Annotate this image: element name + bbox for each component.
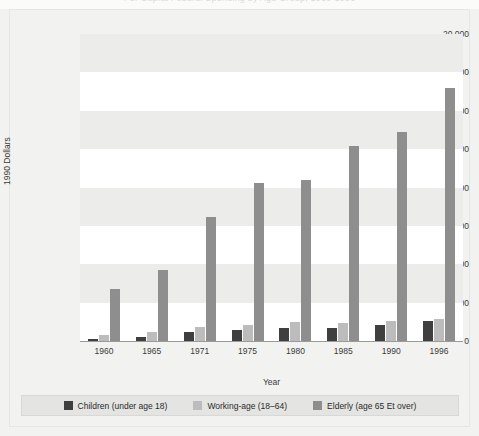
legend-item[interactable]: Elderly (age 65 Et over) [313, 401, 416, 411]
bar [423, 321, 433, 341]
legend-swatch-icon [64, 401, 73, 410]
plot-area [80, 34, 463, 341]
bar [445, 88, 455, 341]
bar [301, 180, 311, 341]
bar [397, 132, 407, 341]
x-axis-title: Year [80, 377, 463, 387]
clipped-title-strip: Per Capita Federal Spending by Age Group… [0, 0, 479, 9]
legend-item[interactable]: Children (under age 18) [64, 401, 168, 411]
y-axis-title: 1990 Dollars [2, 137, 12, 185]
background-band [80, 34, 463, 72]
x-axis-tick-label: 1996 [430, 346, 449, 356]
bar [232, 330, 242, 341]
bar [290, 322, 300, 341]
bar [184, 332, 194, 341]
x-axis-tick-label: 1971 [190, 346, 209, 356]
bar [327, 328, 337, 341]
x-axis-tick-label: 1985 [334, 346, 353, 356]
bar [338, 323, 348, 341]
bar [279, 328, 289, 341]
bar [158, 270, 168, 341]
x-axis-tick-label: 1980 [286, 346, 305, 356]
x-axis-tick-label: 1965 [142, 346, 161, 356]
bar [375, 325, 385, 341]
legend-swatch-icon [313, 401, 322, 410]
legend-label: Elderly (age 65 Et over) [327, 401, 416, 411]
bar [434, 319, 444, 341]
x-axis-line [80, 341, 463, 342]
x-axis-tick-label: 1975 [238, 346, 257, 356]
bar [195, 327, 205, 341]
legend-item[interactable]: Working-age (18–64) [193, 401, 287, 411]
x-axis-tick-label: 1990 [382, 346, 401, 356]
bar [206, 217, 216, 341]
chart-legend: Children (under age 18)Working-age (18–6… [21, 395, 459, 416]
bar [147, 332, 157, 341]
chart-figure: Per Capita Federal Spending by Age Group… [0, 0, 479, 436]
bar [254, 183, 264, 341]
chart-panel: 1990 Dollars 02,5005,0007,50010,00012,50… [9, 9, 470, 427]
chart-title: Per Capita Federal Spending by Age Group… [0, 0, 479, 3]
x-axis-tick-label: 1960 [94, 346, 113, 356]
bar [349, 146, 359, 341]
bar [243, 325, 253, 341]
legend-label: Working-age (18–64) [207, 401, 287, 411]
legend-label: Children (under age 18) [78, 401, 168, 411]
legend-swatch-icon [193, 401, 202, 410]
bar [386, 321, 396, 341]
bar [110, 289, 120, 341]
